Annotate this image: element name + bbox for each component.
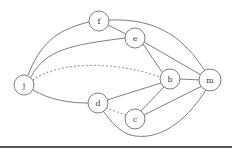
edge-b-d bbox=[107, 83, 161, 100]
svg-text:j: j bbox=[22, 81, 25, 90]
svg-text:e: e bbox=[133, 34, 138, 43]
edge-d-c bbox=[106, 108, 126, 115]
edge-f-e bbox=[108, 25, 126, 34]
node-f: f bbox=[89, 11, 109, 31]
graph-diagram: f e j b m d c bbox=[0, 0, 232, 149]
edge-b-m bbox=[180, 79, 200, 80]
edge-j-e bbox=[31, 38, 125, 77]
horizontal-rule bbox=[0, 146, 232, 148]
edge-b-c bbox=[141, 87, 164, 111]
edge-f-m bbox=[109, 20, 205, 71]
node-j: j bbox=[14, 75, 34, 95]
node-c: c bbox=[125, 109, 145, 129]
edge-e-b bbox=[143, 44, 162, 72]
svg-text:d: d bbox=[95, 99, 100, 108]
node-m: m bbox=[199, 69, 221, 91]
node-d: d bbox=[88, 93, 108, 113]
edge-j-d bbox=[33, 90, 88, 103]
edge-j-b bbox=[33, 65, 160, 80]
edge-m-c bbox=[144, 86, 202, 115]
svg-text:m: m bbox=[206, 76, 214, 85]
svg-text:b: b bbox=[167, 75, 172, 84]
svg-text:c: c bbox=[133, 115, 138, 124]
node-e: e bbox=[125, 28, 145, 48]
node-b: b bbox=[160, 69, 180, 89]
